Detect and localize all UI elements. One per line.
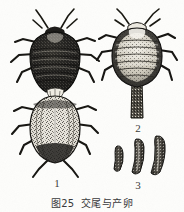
female-abdomen-tip-shading [36,143,74,163]
figure-label-3: 3 [131,180,145,191]
female-beetle [12,96,98,177]
male-antennae [33,9,77,28]
figure-caption: 图25交尾与产卵 [0,195,184,210]
panel-ovipositing-female [96,8,180,124]
figure-plate: 1 [0,0,184,212]
caption-title: 交尾与产卵 [81,198,133,209]
egg-2 [132,139,144,174]
figure-label-2: 2 [131,123,145,134]
egg-1 [114,146,123,171]
mating-pair-illustration [6,6,106,178]
figure-label-1: 1 [50,178,64,189]
ovipositing-female-illustration [96,8,180,124]
caption-number: 25 [61,198,74,209]
male-beetle [11,9,99,92]
egg-3 [151,136,165,175]
panel-eggs [112,134,176,180]
panel-mating-pair [6,6,106,178]
caption-figure-word: 图 [51,198,61,209]
eggs-illustration [112,134,176,180]
